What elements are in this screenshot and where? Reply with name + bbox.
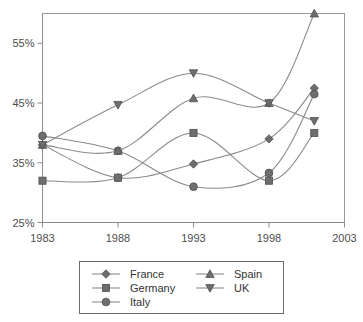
data-point-italy-2001	[310, 90, 318, 98]
legend-label-france: France	[130, 268, 164, 280]
legend-label-italy: Italy	[130, 296, 151, 308]
x-tick-label: 1998	[257, 232, 281, 244]
data-point-germany-1983	[39, 177, 46, 184]
x-tick-label: 1988	[106, 232, 130, 244]
line-chart-figure: 25%35%45%55% 19831988199319982003 France…	[0, 0, 363, 322]
y-tick-label: 35%	[12, 157, 34, 169]
legend-label-uk: UK	[234, 282, 250, 294]
x-tick-label: 1983	[30, 232, 54, 244]
y-tick-label: 45%	[12, 97, 34, 109]
legend-label-germany: Germany	[130, 282, 176, 294]
x-tick-label: 2003	[332, 232, 356, 244]
data-point-germany-2001	[311, 129, 318, 136]
chart-legend: FranceGermanyItalySpainUK	[80, 262, 284, 314]
data-point-germany-1988	[114, 174, 121, 181]
legend-marker-germany	[102, 284, 109, 291]
legend-label-spain: Spain	[234, 268, 262, 280]
x-tick-label: 1993	[181, 232, 205, 244]
data-point-germany-1993	[190, 129, 197, 136]
data-point-italy-1993	[190, 183, 198, 191]
legend-marker-italy	[102, 298, 110, 306]
y-tick-label: 55%	[12, 37, 34, 49]
data-point-italy-1998	[265, 169, 273, 177]
data-point-italy-1983	[39, 132, 47, 140]
y-tick-label: 25%	[12, 217, 34, 229]
chart-canvas: 25%35%45%55% 19831988199319982003 France…	[0, 0, 363, 322]
data-point-germany-1998	[265, 177, 272, 184]
